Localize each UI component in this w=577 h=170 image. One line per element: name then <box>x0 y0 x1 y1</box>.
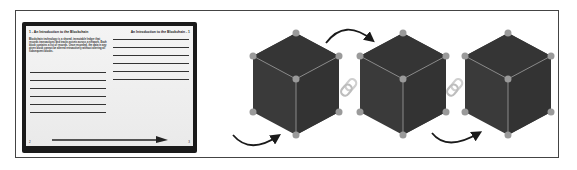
curved-arrow-icon <box>432 133 479 143</box>
chain-link-icon <box>340 78 358 98</box>
curved-arrow-icon <box>233 135 278 145</box>
block-2 <box>357 30 450 139</box>
chain-link-icon <box>446 78 464 98</box>
block-3 <box>462 30 555 139</box>
block-1 <box>250 30 343 139</box>
right-arrow-icon <box>52 136 168 143</box>
curved-arrow-icon <box>326 30 372 43</box>
